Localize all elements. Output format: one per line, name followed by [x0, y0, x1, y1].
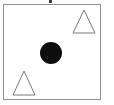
figure-canvas: Geometric shapes diagram: [0, 0, 114, 105]
bounding-box: [3, 4, 101, 100]
triangle-upper-right: [73, 10, 95, 33]
filled-circle: [40, 42, 62, 64]
top-edge-mark: [49, 0, 52, 3]
shapes-layer: [4, 5, 100, 99]
triangle-lower-left: [13, 71, 35, 95]
